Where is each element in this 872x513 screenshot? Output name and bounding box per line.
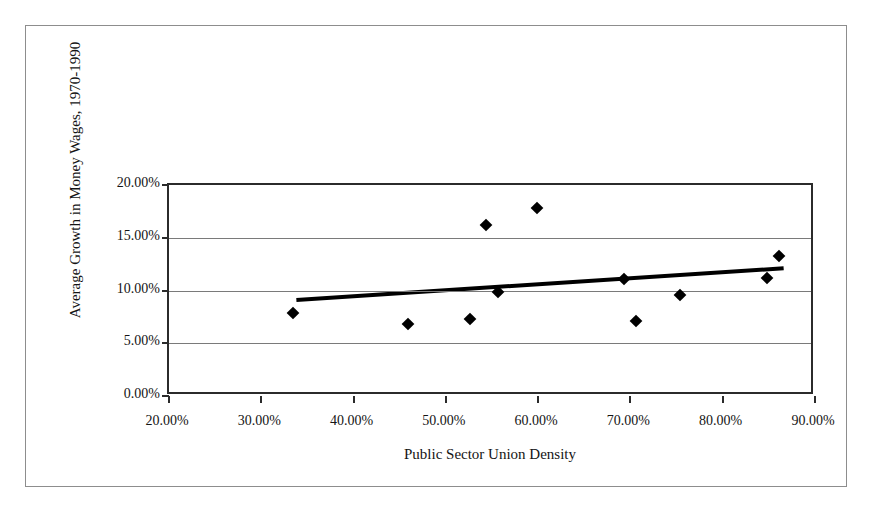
y-axis-tick-mark	[162, 184, 169, 186]
chart-figure: Average Growth in Money Wages, 1970-1990…	[0, 0, 872, 513]
y-axis-tick-mark	[162, 342, 169, 344]
x-axis-tick-mark	[814, 396, 816, 403]
y-axis-tick-labels: 0.00%5.00%10.00%15.00%20.00%	[82, 183, 160, 394]
x-axis-title: Public Sector Union Density	[167, 443, 813, 465]
x-axis-tick-label: 20.00%	[122, 414, 212, 428]
gridline-horizontal	[169, 343, 811, 344]
x-axis-tick-label: 70.00%	[583, 414, 673, 428]
x-axis-tick-label: 40.00%	[307, 414, 397, 428]
gridline-horizontal	[169, 291, 811, 292]
y-axis-tick-mark	[162, 237, 169, 239]
x-axis-tick-label: 30.00%	[214, 414, 304, 428]
gridline-horizontal	[169, 238, 811, 239]
y-axis-tick-label: 20.00%	[82, 176, 160, 190]
x-axis-tick-label: 50.00%	[399, 414, 489, 428]
y-axis-tick-label: 0.00%	[82, 387, 160, 401]
y-axis-tick-label: 5.00%	[82, 334, 160, 348]
x-axis-tick-labels: 20.00%30.00%40.00%50.00%60.00%70.00%80.0…	[167, 402, 813, 422]
x-axis-tick-label: 60.00%	[491, 414, 581, 428]
y-axis-tick-mark	[162, 290, 169, 292]
x-axis-tick-label: 90.00%	[768, 414, 858, 428]
y-axis-tick-label: 15.00%	[82, 229, 160, 243]
x-axis-tick-label: 80.00%	[676, 414, 766, 428]
y-axis-tick-label: 10.00%	[82, 282, 160, 296]
plot-area	[167, 183, 813, 394]
